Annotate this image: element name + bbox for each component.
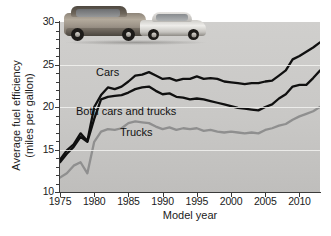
y-tick-label-30: 30 — [32, 15, 54, 27]
y-tick-16 — [56, 141, 59, 142]
line-cars — [60, 42, 320, 159]
y-axis-title: Average fuel efficiency (miles per gallo… — [10, 36, 35, 196]
y-tick-26 — [56, 56, 59, 57]
y-tick-21 — [56, 99, 59, 100]
sedan-window — [156, 14, 188, 21]
y-tick-20 — [55, 107, 59, 108]
y-tick-label-15: 15 — [32, 143, 54, 155]
y-tick-23 — [56, 82, 59, 83]
photo-shadow — [66, 40, 206, 45]
y-axis-title-line1: Average fuel efficiency — [10, 36, 23, 196]
suv-window — [76, 9, 120, 17]
series-label-both-cars-and-trucks: Both cars and trucks — [76, 105, 176, 117]
suv-front-wheel — [71, 28, 84, 41]
y-tick-12 — [56, 175, 59, 176]
series-label-cars: Cars — [96, 66, 119, 78]
series-label-trucks: Trucks — [120, 126, 153, 138]
y-tick-22 — [56, 90, 59, 91]
y-tick-15 — [55, 150, 59, 151]
y-tick-24 — [56, 73, 59, 74]
sedan-rear-wheel — [188, 29, 199, 40]
y-tick-17 — [56, 133, 59, 134]
y-tick-label-20: 20 — [32, 100, 54, 112]
y-tick-30 — [55, 22, 59, 23]
y-tick-10 — [55, 192, 59, 193]
suv-rear-wheel — [122, 28, 135, 41]
y-tick-11 — [56, 184, 59, 185]
y-tick-19 — [56, 116, 59, 117]
y-tick-28 — [56, 39, 59, 40]
vehicle-photos — [62, 4, 207, 50]
y-tick-27 — [56, 48, 59, 49]
gridline-15 — [60, 150, 320, 151]
x-axis-line — [59, 192, 321, 193]
sedan-front-wheel — [148, 29, 159, 40]
y-tick-label-25: 25 — [32, 58, 54, 70]
y-tick-18 — [56, 124, 59, 125]
x-tick-label-2010: 2010 — [279, 195, 319, 207]
y-axis-line — [59, 21, 60, 193]
line-trucks — [60, 107, 320, 178]
fuel-efficiency-chart: 1015202530 19751980198519901995200020052… — [0, 0, 331, 236]
y-tick-14 — [56, 158, 59, 159]
y-tick-29 — [56, 31, 59, 32]
x-axis-title: Model year — [60, 209, 320, 221]
y-tick-25 — [55, 65, 59, 66]
y-axis-title-line2: (miles per gallon) — [22, 36, 35, 196]
y-tick-13 — [56, 167, 59, 168]
